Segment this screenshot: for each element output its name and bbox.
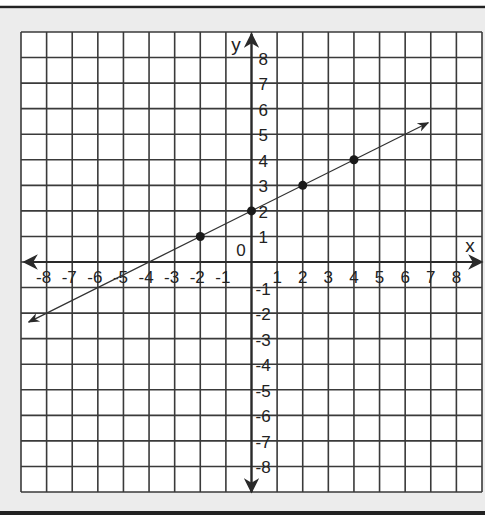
y-tick-label: -6 (256, 407, 271, 426)
x-tick-label: 6 (400, 268, 409, 287)
x-tick-label: 2 (298, 268, 307, 287)
y-tick-label: -2 (256, 305, 271, 324)
y-tick-label: -5 (256, 382, 271, 401)
y-tick-label: 8 (259, 50, 268, 69)
y-tick-label: -3 (256, 331, 271, 350)
x-tick-label: -5 (113, 268, 128, 287)
x-axis-label: x (465, 235, 475, 256)
data-point (298, 181, 307, 190)
y-axis-label: y (231, 34, 241, 55)
x-tick-label: -6 (87, 268, 102, 287)
y-tick-label: 5 (259, 126, 268, 145)
x-tick-label: 8 (452, 268, 461, 287)
y-tick-label: -8 (256, 458, 271, 477)
y-tick-label: -7 (256, 433, 271, 452)
x-tick-label: 4 (349, 268, 358, 287)
x-tick-label: 7 (426, 268, 435, 287)
y-tick-label: 7 (259, 75, 268, 94)
y-tick-label: 6 (259, 101, 268, 120)
y-tick-label: 3 (259, 177, 268, 196)
x-tick-label: 3 (324, 268, 333, 287)
data-point (196, 232, 205, 241)
graph-frame: -8-7-6-5-4-3-2-112345678-8-7-6-5-4-3-2-1… (0, 0, 485, 516)
x-tick-label: -4 (138, 268, 153, 287)
origin-label: 0 (236, 241, 245, 260)
coordinate-plane: -8-7-6-5-4-3-2-112345678-8-7-6-5-4-3-2-1… (0, 0, 485, 516)
y-tick-label: -4 (256, 356, 271, 375)
y-tick-label: 4 (259, 152, 268, 171)
x-tick-label: 5 (375, 268, 384, 287)
x-tick-label: -2 (190, 268, 205, 287)
x-tick-label: -1 (215, 268, 230, 287)
x-tick-label: 1 (272, 268, 281, 287)
x-tick-label: -3 (164, 268, 179, 287)
x-tick-label: -8 (36, 268, 51, 287)
data-point (247, 206, 256, 215)
y-tick-label: 1 (259, 228, 268, 247)
x-tick-label: -7 (62, 268, 77, 287)
data-point (349, 155, 358, 164)
y-tick-label: -1 (256, 280, 271, 299)
